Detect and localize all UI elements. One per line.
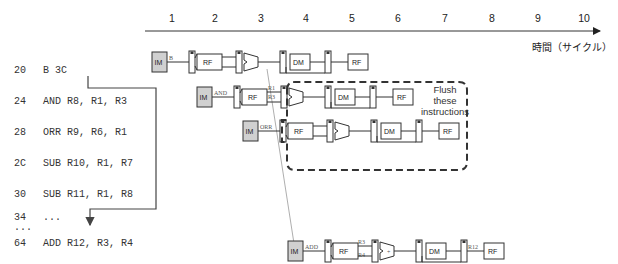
flush-note: Flush these instructions [420,84,470,117]
alu [244,53,258,71]
flush-note-line: Flush [420,84,470,95]
flush-note-line: these [420,95,470,106]
pipeline-row-b: IM B RF DM RF [152,51,368,73]
svg-text:R3: R3 [268,94,275,100]
svg-text:RF: RF [294,128,303,135]
svg-text:RF: RF [203,59,212,66]
svg-text:DM: DM [429,248,440,255]
pipeline-row-and: IM AND RF R1 R3 DM RF [197,85,413,108]
svg-text:R12: R12 [468,244,478,250]
svg-text:IM: IM [246,128,254,135]
pipeline-diagram: IM B RF DM RF IM AND RF R1 R3 [0,0,618,264]
branch-jump-arrow [88,76,156,225]
svg-text:RF: RF [339,248,348,255]
pipeline-row-add: IM ADD RF R3 R4 + DM R12 RF [288,239,504,262]
svg-text:ADD: ADD [305,244,319,250]
svg-text:IM: IM [155,59,163,66]
svg-text:B: B [169,55,173,61]
svg-text:AND: AND [214,90,228,96]
svg-text:DM: DM [384,128,395,135]
svg-text:RF: RF [352,59,361,66]
svg-text:IM: IM [291,248,299,255]
svg-text:R1: R1 [268,85,275,91]
svg-text:RF: RF [248,94,257,101]
svg-text:RF: RF [443,128,452,135]
svg-text:R4: R4 [358,252,365,258]
svg-text:RF: RF [488,248,497,255]
svg-text:ORR: ORR [260,124,272,130]
svg-text:DM: DM [293,59,304,66]
svg-text:RF: RF [397,94,406,101]
flush-note-line: instructions [420,106,470,117]
svg-text:DM: DM [338,94,349,101]
svg-text:R3: R3 [358,239,365,245]
svg-text:IM: IM [200,94,208,101]
